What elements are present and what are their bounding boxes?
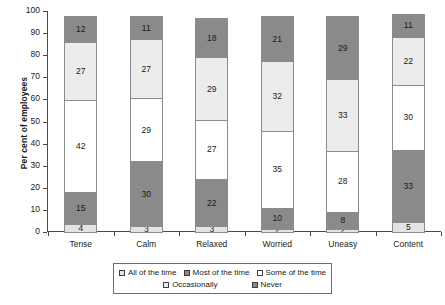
x-axis-label-uneasy: Uneasy (310, 239, 376, 249)
bar-segment-value: 28 (338, 177, 347, 186)
bar-segment[interactable]: 27 (195, 120, 228, 180)
bar-segment[interactable]: 18 (195, 18, 228, 58)
bar-stack: 330292711 (130, 11, 163, 232)
legend-label: Occasionally (172, 279, 217, 290)
y-axis-tick-mark (43, 232, 47, 233)
x-axis-tick-mark (376, 232, 377, 236)
x-axis-label-content: Content (376, 239, 442, 249)
bar-segment[interactable]: 33 (392, 150, 425, 223)
bar-segment[interactable]: 32 (261, 61, 294, 132)
bar-group[interactable]: 533302211 (392, 11, 425, 232)
bar-stack: 533302211 (392, 11, 425, 232)
legend-swatch-icon (257, 270, 263, 276)
x-axis-ticks: TenseCalmRelaxedWorriedUneasyContent (48, 232, 441, 254)
stacked-bar-chart: Per cent of employees 100908070605040302… (0, 0, 445, 305)
bar-segment-value: 30 (142, 190, 151, 199)
bar-segment[interactable]: 27 (130, 39, 163, 99)
bar-segment-value: 29 (207, 85, 216, 94)
bar-group[interactable]: 322272918 (195, 11, 228, 232)
legend-swatch-icon (119, 270, 125, 276)
bar-segment[interactable]: 22 (392, 37, 425, 86)
legend-row-2: OccasionallyNever (119, 279, 326, 290)
bar-segment[interactable]: 30 (392, 85, 425, 151)
bar-segment[interactable]: 22 (195, 179, 228, 228)
y-axis-tick-label: 30 (31, 160, 40, 171)
y-axis-tick-label: 40 (31, 138, 40, 149)
bar-segment-value: 22 (404, 57, 413, 66)
bar-segment-value: 15 (76, 204, 85, 213)
bar-group[interactable]: 28283329 (326, 11, 359, 232)
bar-stack: 415422712 (64, 11, 97, 232)
x-axis-label-worried: Worried (245, 239, 311, 249)
y-axis-tick-label: 70 (31, 71, 40, 82)
x-axis-label-relaxed: Relaxed (179, 239, 245, 249)
bar-segment[interactable]: 10 (261, 208, 294, 230)
y-axis-ticks: 1009080706050403020100 (0, 0, 47, 232)
x-axis-tick-mark (48, 232, 49, 236)
legend-item[interactable]: Never (252, 279, 282, 290)
y-axis-tick-label: 10 (31, 204, 40, 215)
legend-label: Some of the time (266, 267, 326, 278)
bar-segment[interactable]: 11 (392, 14, 425, 38)
x-axis-tick-mark (310, 232, 311, 236)
bar-segment[interactable]: 29 (130, 98, 163, 162)
x-axis-tick-mark (245, 232, 246, 236)
bar-segment[interactable]: 12 (64, 16, 97, 43)
legend-item[interactable]: Occasionally (163, 279, 217, 290)
bar-segment[interactable]: 11 (130, 16, 163, 40)
x-axis-tick-mark (114, 232, 115, 236)
bar-segment[interactable]: 21 (261, 16, 294, 62)
legend-item[interactable]: All of the time (119, 267, 176, 278)
legend-item[interactable]: Some of the time (257, 267, 326, 278)
y-axis-tick-label: 0 (35, 226, 40, 237)
legend-swatch-icon (252, 282, 258, 288)
bar-segment-value: 11 (404, 21, 413, 30)
bar-segment[interactable]: 30 (130, 161, 163, 227)
bar-segment[interactable]: 8 (326, 212, 359, 230)
legend-row-1: All of the timeMost of the timeSome of t… (119, 267, 326, 278)
y-axis-tick-label: 60 (31, 93, 40, 104)
chart-legend: All of the timeMost of the timeSome of t… (113, 263, 332, 294)
legend-label: Never (261, 279, 282, 290)
bar-segment-value: 29 (142, 126, 151, 135)
legend-swatch-icon (163, 282, 169, 288)
legend-label: Most of the time (193, 267, 250, 278)
bar-segment-value: 11 (142, 24, 151, 33)
bar-segment-value: 33 (338, 111, 347, 120)
bar-segment-value: 5 (406, 223, 411, 232)
y-axis-tick-label: 90 (31, 27, 40, 38)
bar-group[interactable]: 210353221 (261, 11, 294, 232)
bar-group[interactable]: 415422712 (64, 11, 97, 232)
bar-segment[interactable]: 33 (326, 79, 359, 152)
bars-layer: 4154227123302927113222729182103532212828… (48, 11, 441, 232)
bar-segment-value: 30 (404, 113, 413, 122)
bar-segment-value: 18 (207, 34, 216, 43)
bar-stack: 28283329 (326, 11, 359, 232)
bar-segment-value: 8 (340, 216, 345, 225)
bar-segment-value: 27 (76, 67, 85, 76)
y-axis-tick-label: 100 (26, 5, 40, 16)
bar-segment-value: 27 (207, 145, 216, 154)
bar-segment-value: 21 (273, 35, 282, 44)
bar-segment-value: 22 (207, 199, 216, 208)
x-axis-tick-mark (179, 232, 180, 236)
bar-segment[interactable]: 35 (261, 131, 294, 208)
bar-stack: 322272918 (195, 11, 228, 232)
y-axis-tick-label: 50 (31, 116, 40, 127)
bar-segment[interactable]: 29 (326, 16, 359, 80)
bar-segment[interactable]: 28 (326, 151, 359, 213)
y-axis-tick-label: 20 (31, 182, 40, 193)
bar-group[interactable]: 330292711 (130, 11, 163, 232)
legend-item[interactable]: Most of the time (184, 267, 250, 278)
bar-segment-value: 10 (273, 214, 282, 223)
bar-segment[interactable]: 15 (64, 192, 97, 225)
x-axis-label-tense: Tense (48, 239, 114, 249)
bar-segment-value: 35 (273, 165, 282, 174)
bar-segment[interactable]: 42 (64, 100, 97, 193)
bar-segment-value: 33 (404, 182, 413, 191)
bar-segment[interactable]: 29 (195, 57, 228, 121)
y-axis-tick-label: 80 (31, 49, 40, 60)
bar-segment[interactable]: 27 (64, 42, 97, 102)
x-axis-tick-mark (441, 232, 442, 236)
legend-swatch-icon (184, 270, 190, 276)
